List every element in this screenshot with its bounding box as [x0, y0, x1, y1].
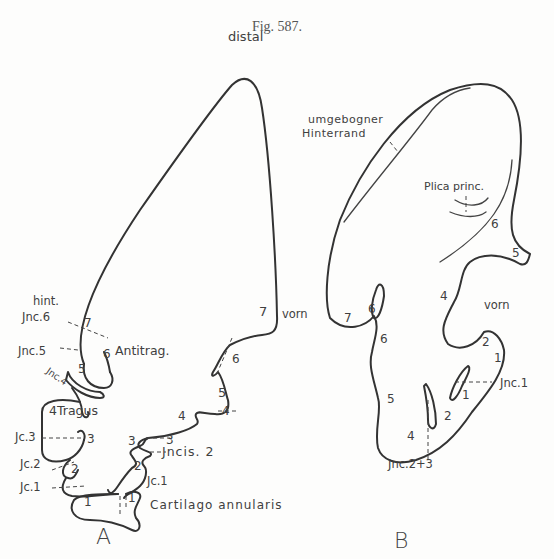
label-tragus: 4Tragus	[49, 405, 98, 418]
num-a-3-outer: 3	[166, 434, 174, 446]
num-a-6-right: 6	[232, 353, 240, 365]
anatomy-drawing	[0, 0, 554, 559]
num-b-4-mid: 4	[440, 290, 448, 302]
num-a-3-inner: 3	[128, 435, 136, 447]
num-a-7-left: 7	[84, 317, 92, 329]
num-b-5-top: 5	[512, 247, 520, 259]
num-b-4-bottom: 4	[407, 430, 415, 442]
num-b-6-outer: 6	[380, 333, 388, 345]
num-a-6-left: 6	[103, 348, 111, 360]
num-b-2-inner: 2	[444, 410, 452, 422]
label-plica-princ: Plica princ.	[424, 181, 484, 192]
label-jc1-left: Jc.1	[20, 482, 41, 494]
label-jc2: Jc.2	[20, 459, 41, 471]
num-a-3-left: 3	[87, 433, 95, 445]
num-a-2-right: 2	[134, 460, 142, 472]
num-b-5-left: 5	[387, 393, 395, 405]
num-b-1-right: 1	[494, 352, 502, 364]
label-distal: distal	[228, 30, 263, 43]
num-b-2-right: 2	[482, 336, 490, 348]
label-antitragus: Antitrag.	[115, 345, 169, 358]
label-jncis2: Jncis. 2	[162, 446, 214, 459]
label-jc1-right: Jc.1	[147, 476, 168, 488]
label-jnc6: Jnc.6	[22, 312, 50, 324]
panel-label-a: A	[96, 526, 111, 548]
label-jc3: Jc.3	[15, 432, 36, 444]
label-vorn-b: vorn	[484, 300, 510, 312]
label-jnc2-3: Jnc.2+3	[388, 459, 433, 471]
label-hint: hint.	[33, 296, 59, 308]
num-b-6-top: 6	[491, 218, 499, 230]
panel-label-b: B	[394, 530, 408, 552]
label-umgebogner: umgebogner	[308, 114, 383, 125]
num-a-4-inner: 4	[178, 410, 186, 422]
num-b-6-inner: 6	[368, 303, 376, 315]
num-a-5-left: 5	[78, 363, 86, 375]
num-a-5-right: 5	[218, 386, 226, 399]
num-a-1-right: 1	[128, 492, 136, 504]
label-vorn-a: vorn	[282, 309, 308, 321]
label-cartilago-annularis: Cartilago annularis	[150, 499, 283, 511]
label-hinterrand: Hinterrand	[302, 128, 366, 139]
num-a-2-left: 2	[71, 463, 79, 475]
num-a-7-right: 7	[259, 305, 267, 318]
num-b-1-inner: 1	[462, 389, 470, 401]
panel-b-outline	[327, 84, 530, 462]
num-b-7-left: 7	[344, 312, 352, 324]
figure-page: Fig. 587.	[0, 0, 554, 559]
label-jnc5: Jnc.5	[18, 346, 46, 358]
num-a-4-outer: 4	[222, 405, 230, 417]
label-jnc1: Jnc.1	[500, 378, 528, 390]
num-a-1-left: 1	[84, 496, 92, 508]
